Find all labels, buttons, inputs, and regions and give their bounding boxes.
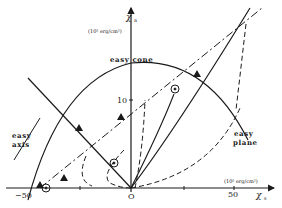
y-axis-subscript: a [134,17,137,23]
dashed-easy-plane [131,108,240,188]
solid-boundary-curve [131,94,174,188]
anisotropy-phase-diagram: χ a (10⁵ erg/cm³) 10 (10⁵ erg/cm³) −50 O… [0,0,282,208]
easy-plane-label-line1: easy [234,129,254,138]
diagram-canvas: χ a (10⁵ erg/cm³) 10 (10⁵ erg/cm³) −50 O… [0,0,282,208]
x-axis-subscript: s [264,195,267,201]
easy-axis-label-line1: easy [12,131,32,140]
easy-cone-label: easy cone [110,55,153,64]
dashed-curve-left [82,156,92,186]
triangle-markers [36,68,201,188]
y-axis-symbol: χ [125,12,132,22]
x-axis-tick-minus50: −50 [15,191,32,200]
y-axis-tick-10: 10 [117,96,127,105]
dashed-vertical-right [236,24,246,110]
x-axis-symbol: χ [255,190,262,200]
dashed-curve-center [135,100,145,188]
dashed-curve-mid [107,150,131,188]
axis-ticks [80,100,234,190]
solid-boundary-upper [131,8,250,188]
circled-dot-markers [42,85,179,192]
easy-plane-label-line2: plane [233,138,258,147]
y-axis-unit: (10⁵ erg/cm³) [88,28,122,35]
x-axis-unit: (10⁵ erg/cm³) [224,178,258,185]
easy-axis-label-line2: axis [12,140,30,149]
x-axis-tick-50: 50 [228,190,238,199]
origin-label: O [128,192,135,201]
